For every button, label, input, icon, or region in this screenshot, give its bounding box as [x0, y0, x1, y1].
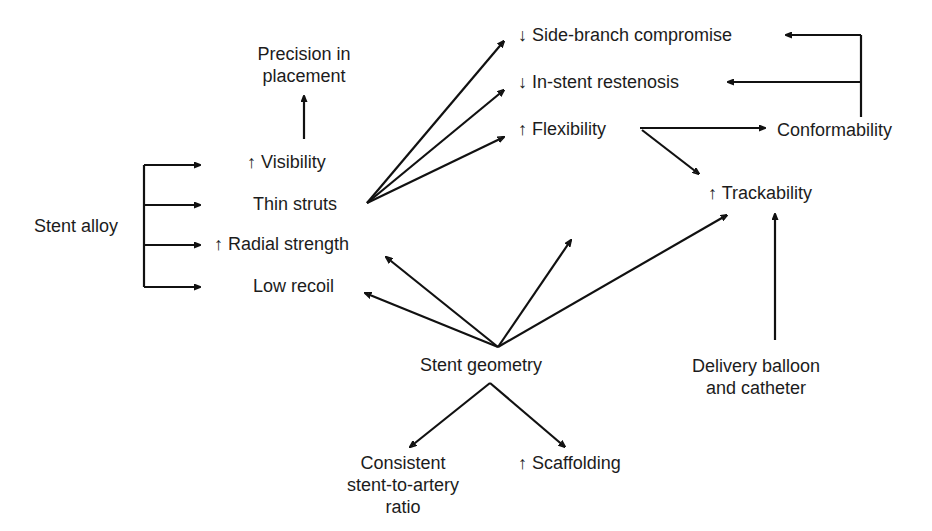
- node-line: Delivery balloon: [676, 355, 836, 377]
- node-label: Side-branch compromise: [532, 25, 732, 45]
- node-line: Precision in: [236, 43, 372, 65]
- node-precision-in-placement: Precision in placement: [236, 43, 372, 87]
- node-label: Trackability: [722, 183, 812, 203]
- node-line: placement: [236, 65, 372, 87]
- decrease-arrow-icon: ↓: [518, 25, 527, 45]
- edges-stent-geometry-up: [365, 215, 727, 347]
- edges-thin-struts: [367, 41, 504, 203]
- edge-flexibility-trackability: [642, 130, 699, 174]
- increase-arrow-icon: ↑: [214, 234, 223, 254]
- node-consistent-stent-to-artery-ratio: Consistent stent-to-artery ratio: [333, 452, 473, 518]
- node-conformability: Conformability: [777, 119, 892, 141]
- node-in-stent-restenosis: ↓ In-stent restenosis: [518, 71, 679, 93]
- node-label: Radial strength: [228, 234, 349, 254]
- node-label: Thin struts: [253, 194, 337, 214]
- node-label: Scaffolding: [532, 453, 621, 473]
- node-line: and catheter: [676, 377, 836, 399]
- node-line: stent-to-artery: [333, 474, 473, 496]
- node-label: Stent geometry: [420, 355, 542, 375]
- node-label: Stent alloy: [34, 216, 118, 236]
- node-trackability: ↑ Trackability: [708, 182, 812, 204]
- edges-stent-geometry-down: [410, 383, 565, 447]
- node-label: Conformability: [777, 120, 892, 140]
- increase-arrow-icon: ↑: [247, 152, 256, 172]
- node-flexibility: ↑ Flexibility: [518, 118, 606, 140]
- node-label: Low recoil: [253, 276, 334, 296]
- node-thin-struts: Thin struts: [253, 193, 337, 215]
- node-label: In-stent restenosis: [532, 72, 679, 92]
- node-visibility: ↑ Visibility: [247, 151, 326, 173]
- decrease-arrow-icon: ↓: [518, 72, 527, 92]
- increase-arrow-icon: ↑: [708, 183, 717, 203]
- node-scaffolding: ↑ Scaffolding: [518, 452, 621, 474]
- node-radial-strength: ↑ Radial strength: [214, 233, 349, 255]
- node-label: Flexibility: [532, 119, 606, 139]
- node-low-recoil: Low recoil: [253, 275, 334, 297]
- node-line: ratio: [333, 496, 473, 518]
- node-stent-alloy: Stent alloy: [34, 215, 118, 237]
- node-side-branch-compromise: ↓ Side-branch compromise: [518, 24, 732, 46]
- node-line: Consistent: [333, 452, 473, 474]
- node-stent-geometry: Stent geometry: [420, 354, 542, 376]
- stent-design-diagram: Precision in placement ↑ Visibility Thin…: [0, 0, 932, 531]
- edges-stent-alloy: [144, 165, 200, 287]
- node-label: Visibility: [261, 152, 326, 172]
- edges-conformability: [728, 35, 861, 117]
- node-delivery-balloon-catheter: Delivery balloon and catheter: [676, 355, 836, 399]
- increase-arrow-icon: ↑: [518, 119, 527, 139]
- increase-arrow-icon: ↑: [518, 453, 527, 473]
